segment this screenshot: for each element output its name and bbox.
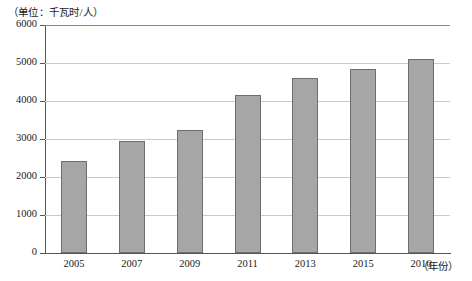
unit-caption: （单位：千瓦时/人） (8, 4, 103, 19)
plot-area (45, 25, 450, 253)
x-tick-label: 2015 (333, 258, 393, 269)
y-tick-label: 3000 (0, 132, 37, 143)
bar (119, 141, 145, 253)
y-tick-label: 0 (0, 246, 37, 257)
x-axis-line (45, 253, 451, 254)
bar-chart: （单位：千瓦时/人） 0100020003000400050006000 200… (0, 0, 472, 281)
bar (235, 95, 261, 253)
bar (408, 59, 434, 253)
y-tick-label: 2000 (0, 170, 37, 181)
y-tick-label: 1000 (0, 208, 37, 219)
x-tick-label: 2009 (160, 258, 220, 269)
y-tick-label: 5000 (0, 56, 37, 67)
y-tick-label: 4000 (0, 94, 37, 105)
y-tick-mark (40, 253, 45, 254)
bar (350, 69, 376, 253)
x-tick-label: 2007 (102, 258, 162, 269)
bar (292, 78, 318, 253)
y-tick-label: 6000 (0, 18, 37, 29)
x-tick-label: 2013 (275, 258, 335, 269)
x-tick-label: 2011 (218, 258, 278, 269)
x-axis-unit-label: （年份） (418, 258, 458, 273)
x-tick-label: 2005 (44, 258, 104, 269)
bar (177, 130, 203, 253)
bar (61, 161, 87, 253)
